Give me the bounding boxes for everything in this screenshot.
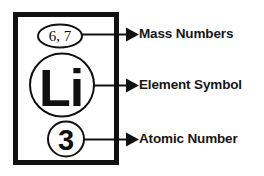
- callout-label-atomic-number: Atomic Number: [139, 132, 238, 146]
- atomic-number-arrow-icon: [126, 133, 139, 147]
- element-box-diagram: 6, 7 Li 3 Mass Numbers Element Symbol At…: [0, 0, 264, 176]
- atomic-number-value: 3: [58, 124, 74, 156]
- mass-numbers-value: 6, 7: [49, 28, 72, 44]
- mass-numbers-arrow-icon: [126, 28, 139, 42]
- element-symbol-arrow-icon: [126, 79, 139, 93]
- callout-label-mass-numbers: Mass Numbers: [139, 27, 233, 41]
- element-symbol-value: Li: [39, 59, 83, 117]
- callout-label-element-symbol: Element Symbol: [139, 78, 242, 92]
